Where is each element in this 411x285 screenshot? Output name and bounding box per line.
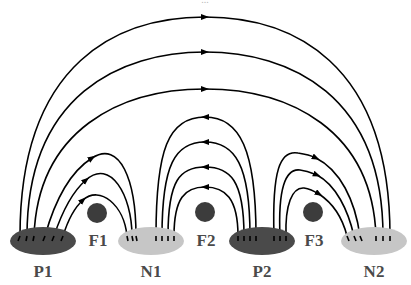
floating-electrode-f3 [303,202,323,222]
floating-electrode-f1 [87,203,107,223]
label-p2: P2 [253,262,272,281]
electrode-n2 [341,227,407,255]
field-lines-p2-n2 [274,153,360,236]
title-fragment: ... [201,0,209,5]
label-n2: N2 [364,262,385,281]
label-n1: N1 [141,262,162,281]
floating-electrode-f2 [195,202,215,222]
field-lines-p1-n1 [45,154,136,236]
label-f2: F2 [197,231,216,250]
label-p1: P1 [34,262,53,281]
label-f1: F1 [89,231,108,250]
electric-field-diagram: ... [0,0,411,285]
label-f3: F3 [305,231,324,250]
electrode-p2 [229,227,295,255]
